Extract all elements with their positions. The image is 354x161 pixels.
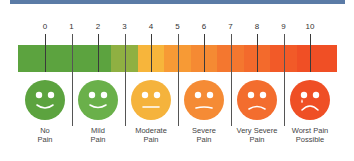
face-label-3: SeverePain [174, 126, 234, 144]
tick-label-7: 7 [221, 22, 241, 31]
bar-segment-0 [18, 45, 58, 72]
tick-mark-9 [284, 34, 285, 126]
face-label-1: MildPain [68, 126, 128, 144]
tick-mark-0 [45, 34, 46, 72]
uneasy-face-icon [184, 80, 224, 120]
tick-label-8: 8 [247, 22, 267, 31]
tick-label-0: 0 [35, 22, 55, 31]
face-label-line1: Moderate [121, 126, 181, 135]
tick-mark-8 [257, 34, 258, 72]
tick-label-5: 5 [168, 22, 188, 31]
bar-segment-10 [297, 45, 337, 72]
face-label-2: ModeratePain [121, 126, 181, 144]
tick-mark-6 [204, 34, 205, 72]
face-label-line2: Pain [121, 135, 181, 144]
face-label-line2: Pain [15, 135, 75, 144]
tick-mark-5 [178, 34, 179, 126]
face-label-line2: Pain [227, 135, 287, 144]
tick-label-9: 9 [274, 22, 294, 31]
tick-label-3: 3 [115, 22, 135, 31]
tick-mark-10 [310, 34, 311, 72]
neutral-face-icon [131, 80, 171, 120]
very-happy-face-icon [25, 80, 65, 120]
crying-face-icon [290, 80, 330, 120]
tick-label-4: 4 [141, 22, 161, 31]
face-label-line1: Mild [68, 126, 128, 135]
tick-label-10: 10 [300, 22, 320, 31]
tick-label-6: 6 [194, 22, 214, 31]
face-label-4: Very SeverePain [227, 126, 287, 144]
face-label-line2: Pain [174, 135, 234, 144]
face-label-line1: No [15, 126, 75, 135]
header-banner [10, 0, 345, 4]
face-label-line1: Worst Pain [280, 126, 340, 135]
tick-mark-1 [72, 34, 73, 126]
face-label-line1: Very Severe [227, 126, 287, 135]
face-label-line2: Possible [280, 135, 340, 144]
face-label-line2: Pain [68, 135, 128, 144]
face-label-line1: Severe [174, 126, 234, 135]
tick-mark-7 [231, 34, 232, 126]
face-label-0: NoPain [15, 126, 75, 144]
tick-label-2: 2 [88, 22, 108, 31]
face-label-5: Worst PainPossible [280, 126, 340, 144]
tick-label-1: 1 [62, 22, 82, 31]
tick-mark-2 [98, 34, 99, 72]
tick-mark-4 [151, 34, 152, 72]
happy-face-icon [78, 80, 118, 120]
sad-face-icon [237, 80, 277, 120]
tick-mark-3 [125, 34, 126, 126]
